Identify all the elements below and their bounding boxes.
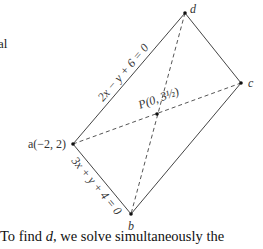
caption-suffix: , we solve simultaneously the [53,228,224,244]
vertex-b [129,212,133,216]
label-p: P(0, 3½) [135,84,181,112]
side-ba [73,144,131,214]
rectangle-diagram: a(−2, 2) d c b P(0, 3½) 2x − y + 6 = 0 3… [0,0,263,249]
vertex-p [155,112,159,116]
vertex-c [239,81,243,85]
label-d: d [190,2,197,16]
caption-var: d [46,228,53,244]
edge-label-ab: 3x + y + 4 = 0 [68,153,125,217]
vertex-d [183,11,187,15]
label-a: a(−2, 2) [28,137,66,151]
side-ad [73,13,185,144]
edge-label-ad: 2x − y + 6 = 0 [95,41,152,104]
caption-prefix: To find [0,228,46,244]
vertex-a [71,142,75,146]
label-c: c [248,76,254,90]
side-dc [185,13,241,83]
caption-text: To find d, we solve simultaneously the [0,228,224,245]
